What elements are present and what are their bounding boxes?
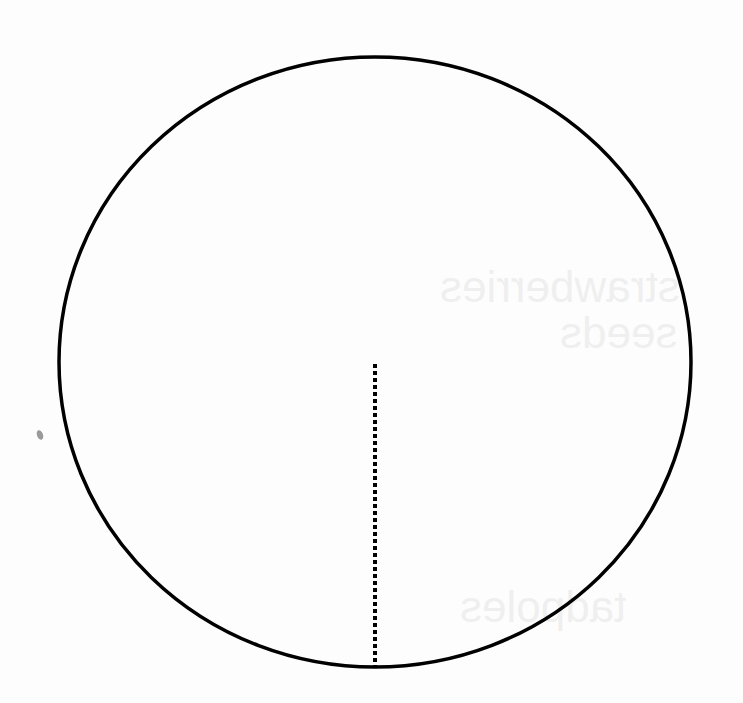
speck-mark <box>35 429 44 440</box>
circle-diagram <box>0 0 743 703</box>
diagram-canvas: strawberries seeds tadpoles <box>0 0 743 703</box>
